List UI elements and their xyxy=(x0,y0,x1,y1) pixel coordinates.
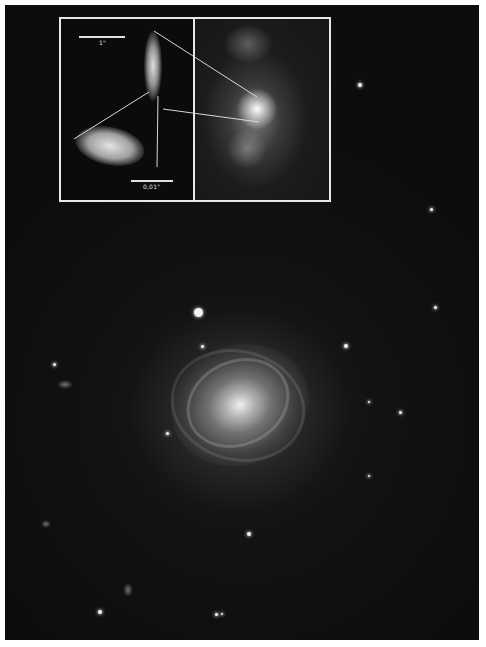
background-galaxy xyxy=(57,380,73,389)
star xyxy=(247,532,251,536)
star xyxy=(221,613,223,615)
star xyxy=(358,83,362,87)
star xyxy=(53,363,56,366)
background-galaxy xyxy=(123,583,133,597)
star xyxy=(368,401,370,403)
star xyxy=(434,306,437,309)
star xyxy=(98,610,102,614)
background-galaxy xyxy=(41,520,51,528)
star xyxy=(344,344,348,348)
star xyxy=(368,475,370,477)
foreground-star xyxy=(194,308,203,317)
star xyxy=(201,345,204,348)
star xyxy=(399,411,402,414)
star xyxy=(215,613,218,616)
connector-lines xyxy=(61,19,329,200)
star xyxy=(166,432,169,435)
inset-frame: 1" 0,01" xyxy=(59,17,331,202)
star xyxy=(430,208,433,211)
